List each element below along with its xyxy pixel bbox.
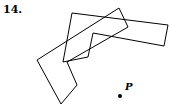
figure: 14. P <box>0 0 170 110</box>
diagram <box>0 0 170 110</box>
angled-shape <box>37 8 128 104</box>
point-label: P <box>125 81 133 92</box>
point-p <box>118 94 122 98</box>
horizontal-shape <box>63 13 168 62</box>
